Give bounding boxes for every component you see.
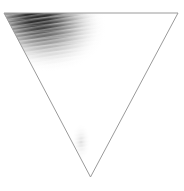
triangle-figure-svg	[0, 0, 184, 191]
figure-canvas: Inverted triangle with grayscale gradien…	[0, 0, 184, 191]
